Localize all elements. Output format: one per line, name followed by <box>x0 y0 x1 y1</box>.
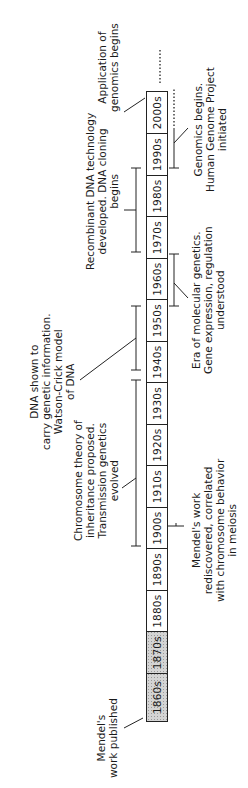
label-mendel-rediscovered: Mendel's work rediscovered, correlated w… <box>190 459 238 602</box>
label-line: Era of molecular genetics. <box>190 226 202 374</box>
label-line: begins <box>108 113 120 270</box>
label-line: work published <box>107 698 119 778</box>
label-line: Watson-Crick model <box>52 313 64 450</box>
label-line: inheritance proposed. <box>84 420 96 541</box>
label-line: understood <box>214 226 226 374</box>
label-line: Gene expression, regulation <box>202 226 214 374</box>
label-line: genomics begins <box>108 23 120 112</box>
label-chromosome-theory: Chromosome theory of inheritance propose… <box>72 420 120 541</box>
label-line: Mendel's work <box>190 459 202 602</box>
label-mendel-published: Mendel's work published <box>95 698 119 778</box>
decade-box-1970s: 1970s <box>147 217 167 259</box>
decade-box-1910s: 1910s <box>147 466 167 508</box>
decade-box-1980s: 1980s <box>147 175 167 217</box>
label-line: developed. DNA cloning <box>96 113 108 270</box>
decade-timeline-bar: 1860s 1870s 1880s 1890s 1900s 1910s 1920… <box>146 91 168 722</box>
label-line: Genomics begins. <box>192 67 204 192</box>
label-line: Transmission genetics <box>96 420 108 541</box>
decade-box-1870s: 1870s <box>147 632 167 674</box>
decade-box-1940s: 1940s <box>147 341 167 383</box>
decade-box-2000s: 2000s <box>147 92 167 134</box>
label-line: carry genetic information. <box>40 313 52 450</box>
label-line: of DNA <box>64 313 76 450</box>
genetics-timeline-diagram: 1860s 1870s 1880s 1890s 1900s 1910s 1920… <box>0 0 248 788</box>
label-line: Mendel's <box>95 698 107 778</box>
decade-box-1880s: 1880s <box>147 590 167 632</box>
label-line: with chromosome behavior <box>214 459 226 602</box>
label-recombinant-dna: Recombinant DNA technology developed. DN… <box>84 113 120 270</box>
decade-box-1890s: 1890s <box>147 549 167 591</box>
decade-box-1920s: 1920s <box>147 424 167 466</box>
decade-box-1860s: 1860s <box>147 673 167 721</box>
label-line: DNA shown to <box>28 313 40 450</box>
decade-box-1900s: 1900s <box>147 507 167 549</box>
label-genomics-application: Application of genomics begins <box>96 23 120 112</box>
label-line: rediscovered, correlated <box>202 459 214 602</box>
label-line: Application of <box>96 23 108 112</box>
decade-box-1990s: 1990s <box>147 134 167 176</box>
decade-box-1960s: 1960s <box>147 258 167 300</box>
label-line: Human Genome Project <box>204 67 216 192</box>
label-molecular-era: Era of molecular genetics. Gene expressi… <box>190 226 226 374</box>
label-line: in meiosis <box>226 459 238 602</box>
label-line: initiated <box>216 67 228 192</box>
label-genomics-begins: Genomics begins. Human Genome Project in… <box>192 67 228 192</box>
label-line: evolved <box>108 420 120 541</box>
decade-box-1950s: 1950s <box>147 300 167 342</box>
label-line: Recombinant DNA technology <box>84 113 96 270</box>
decade-box-1930s: 1930s <box>147 383 167 425</box>
label-dna-genetic-info: DNA shown to carry genetic information. … <box>28 313 76 450</box>
